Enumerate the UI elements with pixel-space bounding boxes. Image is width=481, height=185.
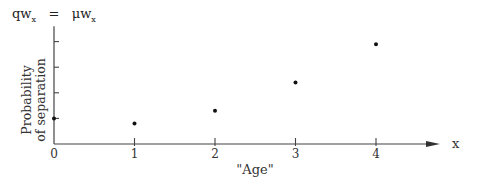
- x-tick-label: 4: [372, 147, 380, 161]
- x-tick-label: 0: [50, 147, 58, 161]
- data-point-2: [213, 109, 217, 113]
- data-point-0: [52, 116, 56, 120]
- x-ticks: 01234: [50, 138, 380, 161]
- y-axis-label-line-2: of separation: [33, 58, 48, 141]
- x-axis-label: "Age": [236, 162, 273, 177]
- x-axis-end-label: x: [452, 136, 460, 151]
- y-axis-label-line-1: Probability: [19, 64, 34, 134]
- x-axis-arrowhead: [426, 141, 440, 147]
- x-tick-label: 2: [211, 147, 219, 161]
- x-tick-label: 3: [292, 147, 300, 161]
- data-point-1: [133, 122, 137, 126]
- data-point-3: [294, 81, 298, 85]
- y-axis-label: Probability of separation: [19, 58, 48, 141]
- data-points: [52, 42, 378, 125]
- data-point-4: [374, 42, 378, 46]
- scatter-chart: x 01234 "Age" Probability of separation: [0, 0, 481, 185]
- y-ticks: [54, 42, 59, 119]
- x-tick-label: 1: [131, 147, 139, 161]
